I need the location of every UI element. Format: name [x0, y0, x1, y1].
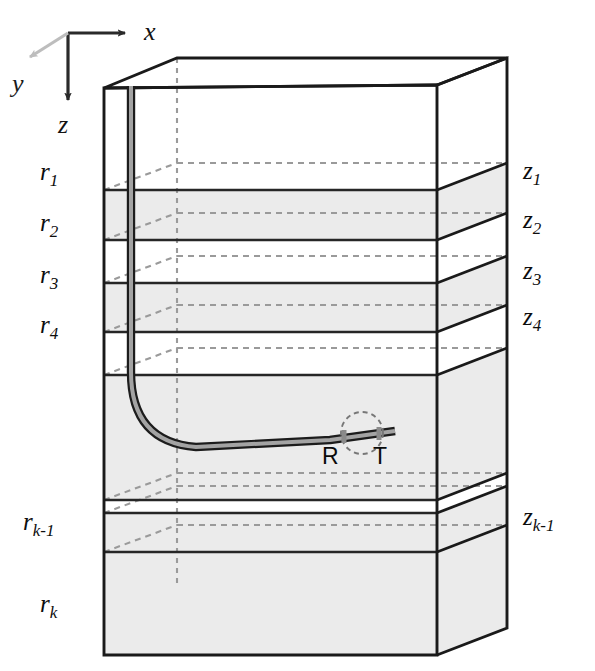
- side-band-r4: [437, 256, 507, 332]
- label-r1: r1: [40, 158, 58, 190]
- label-rk: rk: [40, 590, 58, 622]
- label-r4: r4: [40, 311, 59, 343]
- front-band-rk1: [104, 513, 437, 552]
- label-z2: z2: [522, 206, 542, 238]
- transmitter-label: T: [373, 443, 387, 469]
- label-z4: z4: [522, 303, 542, 335]
- label-z1: z1: [522, 157, 541, 189]
- front-band-r2: [104, 190, 437, 240]
- label-z3: z3: [522, 257, 541, 289]
- left-layer-labels: r1 r2 r3 r4 rk-1 rk: [23, 158, 59, 622]
- y-axis-arrow: [30, 33, 68, 57]
- z-axis-label: z: [57, 110, 68, 139]
- figure-root: x y z r1 r2 r3 r4 rk-1 rk: [0, 0, 595, 671]
- left-edge-z3: [104, 256, 177, 283]
- front-band-r4: [104, 283, 437, 332]
- receiver-label: R: [322, 443, 339, 469]
- front-face-shaded-bands: [104, 190, 437, 655]
- label-r2: r2: [40, 209, 59, 241]
- right-depth-labels: z1 z2 z3 z4 zk-1: [522, 157, 554, 535]
- coordinate-axes-group: [30, 33, 125, 100]
- side-band-r2: [437, 163, 507, 240]
- label-rk1: rk-1: [23, 508, 54, 540]
- label-zk1: zk-1: [522, 503, 554, 535]
- reservoir-layer-diagram: x y z r1 r2 r3 r4 rk-1 rk: [0, 0, 595, 671]
- left-edge-z1: [104, 163, 177, 190]
- front-band-rk: [104, 552, 437, 655]
- box-top-face: [104, 58, 507, 88]
- x-axis-label: x: [143, 17, 156, 46]
- y-axis-label: y: [9, 69, 24, 98]
- left-edge-well-top: [104, 348, 177, 375]
- label-r3: r3: [40, 261, 58, 293]
